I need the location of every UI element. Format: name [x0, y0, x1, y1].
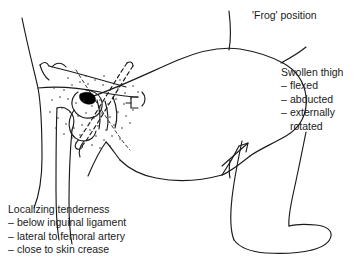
illustration-page: 'Frog' position Swollen thigh –flexed –a…: [0, 0, 361, 270]
item-text: abducted: [290, 93, 333, 105]
buttock-crease: [106, 142, 120, 160]
dash-bullet: –: [8, 243, 17, 256]
iliac-crest-bump-1: [40, 62, 49, 66]
needle-line-2: [82, 66, 133, 146]
dash-bullet: –: [281, 106, 290, 119]
waist-line: [229, 11, 231, 50]
iliac-inner-line: [40, 65, 49, 80]
item-text: below inguinal ligament: [17, 216, 126, 228]
dash-bullet: –: [8, 216, 17, 229]
tenderness-item-inguinal: –below inguinal ligament: [8, 216, 126, 229]
thigh-label-leader: [281, 47, 306, 63]
femur-upper-junction: [57, 107, 74, 130]
torso-outline: [22, 18, 42, 208]
caliper-bracket-arc: [142, 92, 145, 106]
dash-bullet: –: [281, 79, 290, 92]
iliac-crest-bump-2: [52, 63, 66, 67]
swollen-thigh-item-externally: –externally: [281, 106, 343, 119]
swollen-thigh-item-rotated: rotated: [281, 120, 343, 133]
lesion-spot: [79, 92, 95, 104]
dash-bullet: –: [8, 230, 17, 243]
cross-marker-line: [76, 70, 130, 150]
tenderness-item-skin-crease: –close to skin crease: [8, 243, 126, 256]
item-text: externally: [290, 106, 335, 118]
tenderness-heading: Localizing tenderness: [8, 203, 126, 216]
tenderness-item-femoral-artery: –lateral to femoral artery: [8, 230, 126, 243]
swollen-thigh-item-abducted: –abducted: [281, 93, 343, 106]
swollen-thigh-item-flexed: –flexed: [281, 79, 343, 92]
needle-tip-cap: [127, 62, 133, 66]
dash-bullet: –: [281, 93, 290, 106]
item-text: lateral to femoral artery: [17, 230, 125, 242]
swollen-thigh-heading: Swollen thigh: [281, 66, 343, 79]
item-text: flexed: [290, 79, 318, 91]
foot-toe-heel: [289, 224, 331, 250]
posterior-thigh-fold: [120, 160, 222, 180]
foot-sole: [234, 240, 312, 253]
localizing-tenderness-annotation: Localizing tenderness –below inguinal li…: [8, 203, 126, 257]
thigh-arrow-shaft: [222, 143, 248, 166]
title-text: 'Frog' position: [252, 9, 317, 22]
item-text: close to skin crease: [17, 243, 109, 255]
buttock-lower-edge: [88, 142, 106, 176]
thigh-arrow-stem: [229, 160, 230, 178]
gluteal-arc-3: [113, 97, 117, 128]
lower-leg-back: [289, 132, 306, 226]
caliper-bracket-right: [131, 97, 138, 108]
frog-position-title: 'Frog' position: [252, 9, 317, 22]
lower-leg-front: [231, 141, 242, 240]
swollen-thigh-annotation: Swollen thigh –flexed –abducted –externa…: [281, 66, 343, 133]
